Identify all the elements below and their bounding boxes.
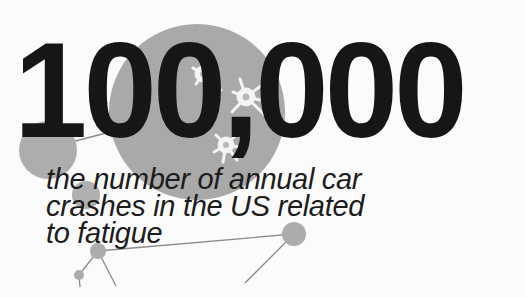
caption-line-1: the number of annual car (46, 166, 364, 193)
caption: the number of annual car crashes in the … (46, 166, 364, 247)
headline-number: 100,000 (14, 22, 464, 158)
bottom-small-node-circle (74, 270, 84, 280)
caption-line-3: to fatigue (46, 220, 364, 247)
caption-line-2: crashes in the US related (46, 193, 364, 220)
